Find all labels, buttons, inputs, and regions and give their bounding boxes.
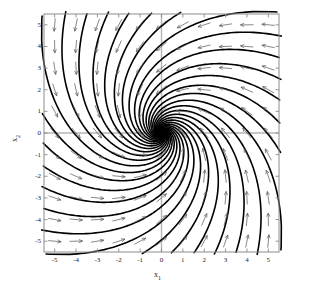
x-axis-title: x1	[154, 270, 161, 281]
phase-portrait-plot	[0, 0, 335, 291]
y-tick-label: -2	[27, 172, 41, 180]
y-axis-title: x2	[10, 135, 21, 142]
x-tick-label: 0	[157, 256, 167, 264]
y-tick-label: 1	[27, 107, 41, 115]
x-tick-label: 4	[242, 256, 252, 264]
phase-portrait-figure: x1 x2 -5-4-3-2-1012345-5-4-3-2-1012345	[0, 0, 335, 291]
y-tick-label: -4	[27, 216, 41, 224]
y-tick-label: -1	[27, 151, 41, 159]
x-tick-label: -3	[92, 256, 102, 264]
x-axis-title-sub: 1	[158, 275, 161, 281]
y-tick-label: -5	[27, 237, 41, 245]
y-tick-label: 5	[27, 21, 41, 29]
y-tick-label: 3	[27, 64, 41, 72]
y-axis-title-text: x	[10, 138, 19, 142]
x-tick-label: 2	[199, 256, 209, 264]
x-tick-label: -2	[114, 256, 124, 264]
y-tick-label: 2	[27, 86, 41, 94]
x-tick-label: -4	[71, 256, 81, 264]
x-tick-label: 3	[221, 256, 231, 264]
y-tick-label: 0	[27, 129, 41, 137]
y-axis-title-sub: 2	[15, 135, 21, 138]
x-tick-label: 5	[263, 256, 273, 264]
y-tick-label: -3	[27, 194, 41, 202]
x-tick-label: 1	[178, 256, 188, 264]
y-tick-label: 4	[27, 42, 41, 50]
x-tick-label: -1	[135, 256, 145, 264]
x-tick-label: -5	[50, 256, 60, 264]
